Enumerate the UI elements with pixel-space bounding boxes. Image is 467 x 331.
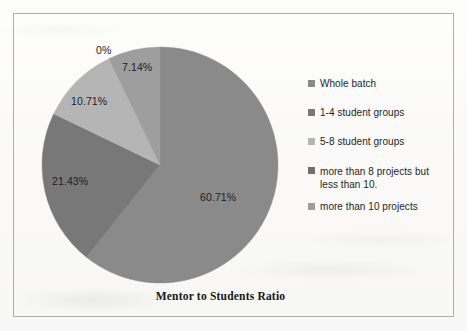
pie-chart-screenshot: 60.71% 21.43% 10.71% 0% 7.14% Mentor to … xyxy=(0,0,467,331)
legend-swatch-icon xyxy=(308,138,315,145)
legend-item-label: more than 10 projects xyxy=(320,201,418,213)
legend-item[interactable]: 1-4 student groups xyxy=(308,107,448,119)
legend-item[interactable]: 5-8 student groups xyxy=(308,136,448,148)
chart-title: Mentor to Students Ratio xyxy=(0,290,441,302)
pie-slices xyxy=(42,47,278,283)
plot-area: 60.71% 21.43% 10.71% 0% 7.14% Mentor to … xyxy=(0,0,467,331)
slice-label-5-8-student-groups: 10.71% xyxy=(71,95,107,107)
legend-item[interactable]: Whole batch xyxy=(308,78,448,90)
slice-label-whole-batch: 60.71% xyxy=(200,191,236,203)
legend-item-label: 1-4 student groups xyxy=(320,107,404,119)
chart-legend: Whole batch1-4 student groups5-8 student… xyxy=(308,78,448,230)
slice-label-more-than-10-projects: 7.14% xyxy=(122,61,152,73)
legend-swatch-icon xyxy=(308,80,315,87)
legend-item-label: 5-8 student groups xyxy=(320,136,404,148)
legend-swatch-icon xyxy=(308,203,315,210)
legend-item[interactable]: more than 8 projects but less than 10. xyxy=(308,165,448,191)
pie-graphic xyxy=(40,45,280,285)
slice-label-more-than-8-projects: 0% xyxy=(96,44,111,56)
legend-swatch-icon xyxy=(308,167,315,174)
legend-item-label: more than 8 projects but less than 10. xyxy=(320,165,448,191)
legend-item-label: Whole batch xyxy=(320,78,376,90)
legend-swatch-icon xyxy=(308,109,315,116)
legend-item[interactable]: more than 10 projects xyxy=(308,201,448,213)
slice-label-1-4-student-groups: 21.43% xyxy=(52,175,88,187)
